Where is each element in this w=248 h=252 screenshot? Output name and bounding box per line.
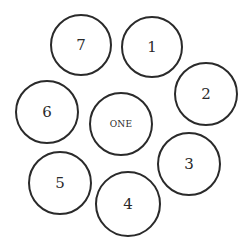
circle-2-label: 2 — [201, 85, 211, 103]
circle-4: 4 — [95, 171, 161, 237]
circle-5-label: 5 — [55, 174, 65, 192]
circle-7-label: 7 — [76, 36, 86, 54]
circle-6-label: 6 — [42, 103, 52, 121]
circle-6: 6 — [15, 80, 79, 144]
circle-4-label: 4 — [123, 195, 133, 213]
center-circle-label: ONE — [110, 119, 133, 129]
circle-2: 2 — [174, 62, 238, 126]
center-circle: ONE — [89, 92, 153, 156]
circle-1-label: 1 — [147, 38, 157, 56]
circle-3-label: 3 — [184, 155, 194, 173]
circle-3: 3 — [157, 132, 221, 196]
circle-1: 1 — [121, 16, 183, 78]
circle-5: 5 — [28, 151, 92, 215]
circle-7: 7 — [50, 14, 112, 76]
